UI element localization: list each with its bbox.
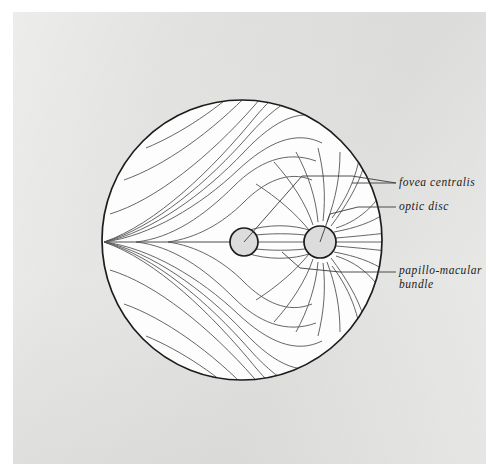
figure-page: fovea centralis optic disc papillo-macul…: [0, 0, 486, 472]
label-fovea-centralis: fovea centralis: [399, 176, 475, 190]
label-papillo-macular-bundle: papillo-macular bundle: [399, 264, 482, 291]
label-papillo-macular-line1: papillo-macular: [399, 264, 482, 276]
label-papillo-macular-line2: bundle: [399, 278, 434, 290]
retina-diagram: [0, 0, 486, 472]
label-optic-disc: optic disc: [399, 200, 449, 214]
